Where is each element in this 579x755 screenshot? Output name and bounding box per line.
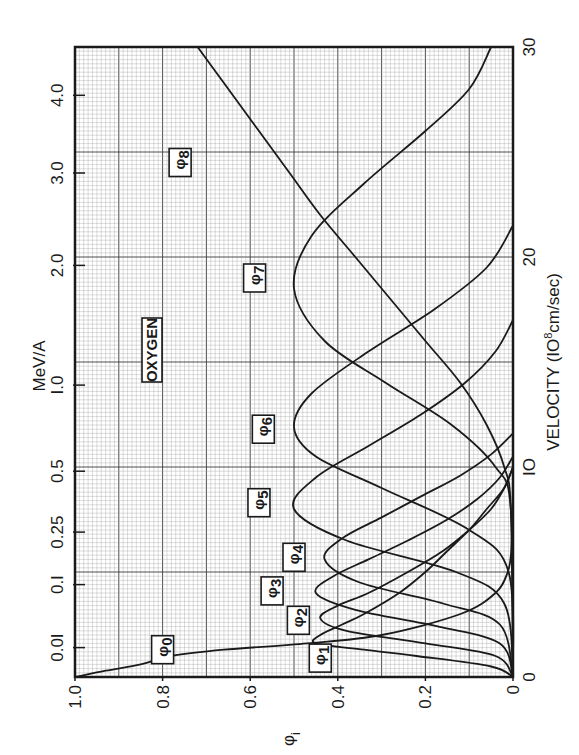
label-phi-symbol: φ xyxy=(289,616,306,627)
energy-tick-label: 0.0I xyxy=(48,633,67,661)
label-phi-subscript: 0 xyxy=(158,637,175,645)
label-phi-symbol: φ xyxy=(154,646,171,657)
curve-label-phi-8: φ8 xyxy=(169,149,192,177)
phi-tick-label: 1.0 xyxy=(66,685,85,709)
velocity-tick-label: 30 xyxy=(520,38,539,57)
label-phi-symbol: φ xyxy=(171,159,188,170)
label-phi-subscript: 5 xyxy=(254,490,271,498)
energy-tick-label: 2.0 xyxy=(48,254,67,278)
velocity-tick-label: IO xyxy=(520,458,539,476)
label-phi-subscript: 7 xyxy=(250,266,267,274)
label-phi-symbol: φ xyxy=(285,553,302,564)
energy-axis-title: MeV/A xyxy=(30,340,49,392)
energy-tick-label: 0.25 xyxy=(48,516,67,549)
velocity-axis-title: VELOCITY (IO8cm/sec) xyxy=(542,273,563,451)
label-phi-symbol: φ xyxy=(246,274,263,285)
label-phi-subscript: 8 xyxy=(175,150,192,158)
phi-axis-title: φi xyxy=(279,732,303,746)
energy-tick-label: 0.5 xyxy=(48,459,67,483)
energy-tick-label: 4.0 xyxy=(48,83,67,107)
phi-tick-label: 0.8 xyxy=(154,685,173,709)
phi-tick-label: 0 xyxy=(504,685,523,694)
label-phi-subscript: 3 xyxy=(267,579,284,587)
phi-tick-label: 0.2 xyxy=(416,685,435,709)
label-phi-subscript: 4 xyxy=(289,544,306,553)
label-phi-symbol: φ xyxy=(254,425,271,436)
label-phi-symbol: φ xyxy=(263,587,280,598)
curve-label-phi-5: φ5 xyxy=(248,489,271,517)
curve-label-phi-3: φ3 xyxy=(261,577,284,605)
label-phi-symbol: φ xyxy=(311,654,328,665)
oxygen-label: OXYGEN xyxy=(143,318,160,382)
label-phi-subscript: 6 xyxy=(258,417,275,425)
velocity-title-main: VELOCITY (IO xyxy=(544,339,563,451)
curve-phi-3 xyxy=(315,457,513,678)
label-phi-subscript: 2 xyxy=(293,608,310,616)
curve-label-phi-4: φ4 xyxy=(283,543,306,571)
oxygen-annotation: OXYGEN xyxy=(142,318,162,382)
energy-tick-label: 3.0 xyxy=(48,161,67,185)
curve-label-phi-1: φ1 xyxy=(309,644,332,672)
phi-title-sub: i xyxy=(288,732,303,735)
label-phi-symbol: φ xyxy=(250,499,267,510)
phi-title-main: φ xyxy=(279,735,298,746)
curve-label-phi-2: φ2 xyxy=(287,606,310,634)
grid xyxy=(75,47,513,677)
velocity-tick-label: 0 xyxy=(520,672,539,681)
curve-label-phi-0: φ0 xyxy=(152,636,175,664)
energy-tick-label: 0.I xyxy=(48,575,67,594)
phi-tick-label: 0.4 xyxy=(329,685,348,709)
phi-tick-label: 0.6 xyxy=(241,685,260,709)
curve-label-phi-7: φ7 xyxy=(244,264,267,292)
phi-vs-velocity-chart: 1.00.80.60.40.200IO20300.0I0.I0.250.5I.0… xyxy=(0,0,579,755)
energy-tick-label: I.0 xyxy=(48,376,67,395)
velocity-tick-label: 20 xyxy=(520,248,539,267)
curve-label-phi-6: φ6 xyxy=(252,415,275,443)
velocity-title-tail: cm/sec) xyxy=(544,273,563,333)
label-phi-subscript: 1 xyxy=(315,646,332,654)
